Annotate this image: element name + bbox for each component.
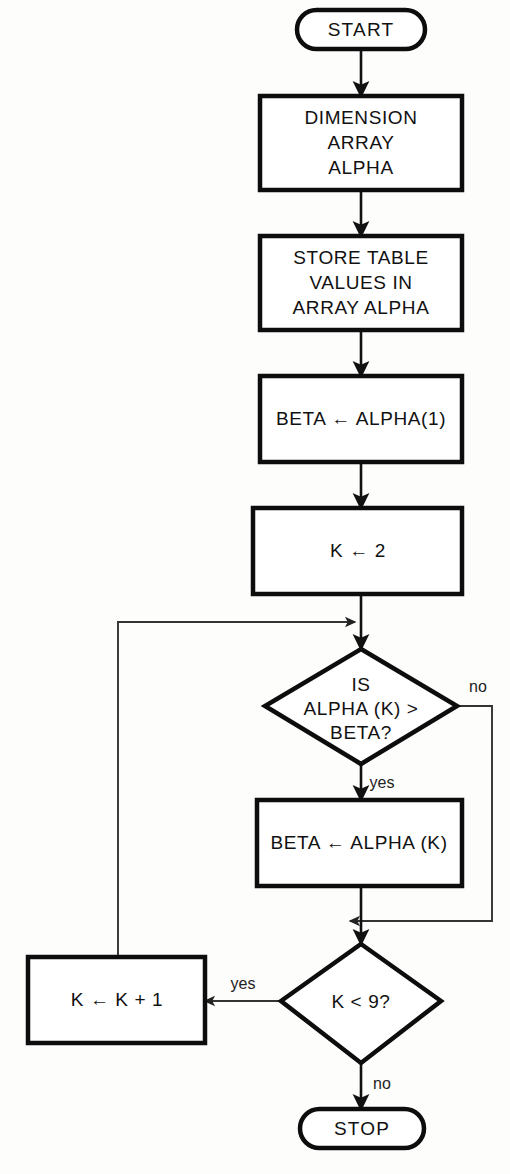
node-store: STORE TABLE VALUES IN ARRAY ALPHA (260, 236, 462, 330)
node-compare: IS ALPHA (K) > BETA? (265, 649, 457, 764)
node-dimension-line-1: DIMENSION (304, 107, 417, 128)
node-compare-line-1: IS (351, 674, 370, 695)
node-store-line-2: VALUES IN (309, 272, 412, 293)
edge-label-compare-no: no (469, 678, 487, 695)
edge-label-k-test-yes: yes (231, 975, 256, 992)
node-k-init-label: K ← 2 (330, 540, 386, 561)
node-store-line-1: STORE TABLE (293, 247, 428, 268)
node-start-label: START (328, 19, 395, 40)
edge-label-k-test-no: no (373, 1075, 391, 1092)
node-compare-line-2: ALPHA (K) > (304, 698, 419, 719)
node-stop: STOP (300, 1109, 424, 1148)
node-dimension-line-2: ARRAY (327, 132, 394, 153)
node-k-increment: K ← K + 1 (28, 957, 205, 1043)
node-beta-init: BETA ← ALPHA(1) (260, 376, 462, 462)
node-stop-label: STOP (334, 1118, 390, 1139)
node-beta-init-label: BETA ← ALPHA(1) (276, 408, 446, 429)
node-store-line-3: ARRAY ALPHA (293, 297, 430, 318)
node-compare-line-3: BETA? (330, 722, 392, 743)
node-dimension-line-3: ALPHA (328, 157, 393, 178)
edge-label-compare-yes: yes (370, 774, 395, 791)
node-start: START (297, 10, 425, 49)
node-beta-update: BETA ← ALPHA (K) (257, 800, 462, 886)
node-k-test: K < 9? (281, 944, 441, 1063)
node-k-increment-label: K ← K + 1 (71, 989, 164, 1010)
flowchart-diagram: START DIMENSION ARRAY ALPHA STORE TABLE … (0, 0, 510, 1174)
node-k-init: K ← 2 (253, 508, 462, 594)
node-beta-update-label: BETA ← ALPHA (K) (270, 832, 447, 853)
node-k-test-label: K < 9? (331, 991, 390, 1012)
node-dimension: DIMENSION ARRAY ALPHA (260, 96, 462, 190)
